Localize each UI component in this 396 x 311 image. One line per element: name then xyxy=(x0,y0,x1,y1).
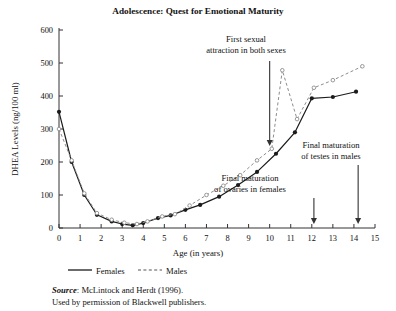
chart-figure: Adolescence: Quest for Emotional Maturit… xyxy=(0,0,396,311)
annotation-1-line-0: Final maturation xyxy=(221,173,279,183)
data-point-males xyxy=(188,204,192,208)
data-point-males xyxy=(70,159,74,163)
annotation-0-line-1: attraction in both sexes xyxy=(206,45,286,55)
x-tick-label: 14 xyxy=(350,234,359,243)
x-tick-label: 11 xyxy=(287,234,295,243)
x-tick-label: 3 xyxy=(120,234,124,243)
annotation-0-line-0: First sexual xyxy=(226,34,266,44)
dhea-line-chart: Adolescence: Quest for Emotional Maturit… xyxy=(0,0,396,311)
data-point-females xyxy=(57,110,61,114)
data-point-males xyxy=(361,65,365,69)
legend-label-males: Males xyxy=(166,266,188,276)
x-tick-label: 9 xyxy=(247,234,251,243)
permission-line: Used by permission of Blackwell publishe… xyxy=(52,297,206,307)
data-point-females xyxy=(198,203,202,207)
y-tick-label: 500 xyxy=(40,59,53,68)
data-point-males xyxy=(270,147,274,151)
x-tick-label: 0 xyxy=(57,234,61,243)
y-tick-label: 400 xyxy=(40,92,53,101)
data-point-males xyxy=(146,220,150,224)
data-point-males xyxy=(110,218,114,222)
annotation-2-line-1: of testes in males xyxy=(301,151,361,161)
annotation-2-arrow-head xyxy=(355,218,361,224)
data-point-females xyxy=(156,216,160,220)
annotation-1-arrow-head xyxy=(311,218,317,224)
x-tick-label: 13 xyxy=(329,234,337,243)
source-line: Source: McLintock and Herdt (1996). xyxy=(52,285,183,295)
x-tick-label: 4 xyxy=(141,234,146,243)
x-tick-label: 7 xyxy=(204,234,208,243)
legend-label-females: Females xyxy=(96,266,125,276)
x-axis-label: Age (in years) xyxy=(173,248,223,258)
annotation-2-line-0: Final maturation xyxy=(302,140,360,150)
y-tick-label: 300 xyxy=(40,125,53,134)
data-point-males xyxy=(205,193,209,197)
data-point-males xyxy=(135,222,139,226)
data-point-males xyxy=(95,211,99,215)
data-point-males xyxy=(255,159,259,163)
annotation-0-arrow-head xyxy=(267,140,273,146)
source-text: : McLintock and Herdt (1996). xyxy=(77,285,183,295)
data-point-males xyxy=(173,212,177,216)
x-tick-label: 6 xyxy=(183,234,187,243)
x-tick-label: 8 xyxy=(225,234,229,243)
data-point-males xyxy=(123,221,127,225)
y-tick-label: 100 xyxy=(40,191,53,200)
chart-title: Adolescence: Quest for Emotional Maturit… xyxy=(112,6,284,16)
x-tick-label: 15 xyxy=(371,234,379,243)
data-point-females xyxy=(217,195,221,199)
data-point-females xyxy=(293,130,297,134)
data-point-males xyxy=(331,78,335,82)
y-tick-label: 0 xyxy=(49,224,53,233)
data-point-males xyxy=(82,192,86,196)
data-point-females xyxy=(274,152,278,156)
data-point-males xyxy=(312,86,316,90)
y-axis-label: DHEA Levels (ng/100 ml) xyxy=(10,82,20,176)
data-point-males xyxy=(57,127,61,131)
x-tick-label: 1 xyxy=(78,234,82,243)
y-tick-label: 200 xyxy=(40,158,53,167)
x-tick-label: 10 xyxy=(265,234,273,243)
y-tick-label: 600 xyxy=(40,26,53,35)
data-point-females xyxy=(331,95,335,99)
data-point-females xyxy=(310,96,314,100)
data-point-females xyxy=(354,90,358,94)
data-point-males xyxy=(295,117,299,121)
x-tick-label: 2 xyxy=(99,234,103,243)
annotation-1-line-1: of ovaries in females xyxy=(214,184,286,194)
source-label: Source xyxy=(52,285,77,295)
x-tick-label: 5 xyxy=(162,234,166,243)
x-tick-label: 12 xyxy=(308,234,316,243)
data-point-males xyxy=(281,68,285,72)
data-point-males xyxy=(160,215,164,219)
